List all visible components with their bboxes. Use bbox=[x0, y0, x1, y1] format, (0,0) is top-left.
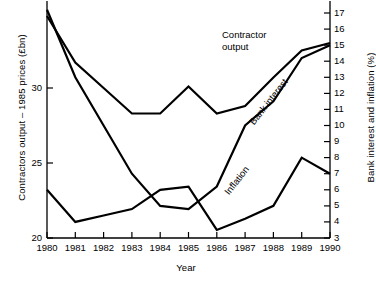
series-line-bank-interest bbox=[47, 10, 330, 209]
y-right-tick-label-15: 15 bbox=[334, 40, 356, 50]
series-line-inflation bbox=[47, 158, 330, 230]
y-right-tick-label-12: 12 bbox=[334, 88, 356, 98]
y-right-tick-label-16: 16 bbox=[334, 24, 356, 34]
x-tick-label-1990: 1990 bbox=[313, 243, 347, 253]
y-right-tick-label-10: 10 bbox=[334, 120, 356, 130]
y-right-tick-label-5: 5 bbox=[334, 200, 356, 210]
y-right-tick-label-7: 7 bbox=[334, 168, 356, 178]
contractor-output-label: Contractor output bbox=[222, 29, 266, 52]
y-axis-right-title: Bank interest and inflation (%) bbox=[365, 23, 376, 213]
x-axis-ticks bbox=[47, 232, 330, 238]
series-line-contractor-output bbox=[47, 16, 330, 114]
y-axis-left-title: Contractors output – 1985 prices (£bn) bbox=[16, 23, 27, 213]
y-axis-left-ticks bbox=[47, 88, 53, 238]
y-right-tick-label-17: 17 bbox=[334, 8, 356, 18]
y-right-tick-label-9: 9 bbox=[334, 136, 356, 146]
y-right-tick-label-4: 4 bbox=[334, 216, 356, 226]
y-right-tick-label-14: 14 bbox=[334, 56, 356, 66]
y-right-tick-label-6: 6 bbox=[334, 184, 356, 194]
y-right-tick-label-13: 13 bbox=[334, 72, 356, 82]
y-right-tick-label-8: 8 bbox=[334, 152, 356, 162]
x-axis-title: Year bbox=[0, 262, 372, 273]
axis-lines bbox=[47, 1, 330, 238]
y-right-tick-label-11: 11 bbox=[334, 104, 356, 114]
